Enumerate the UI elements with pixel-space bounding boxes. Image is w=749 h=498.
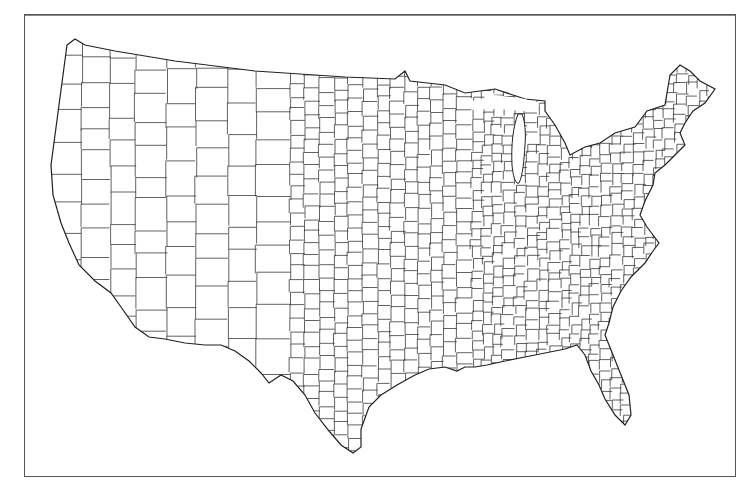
us-outline	[51, 39, 715, 453]
us-county-map	[25, 15, 735, 476]
map-frame	[24, 14, 736, 477]
lake-michigan	[512, 114, 526, 183]
figure-caption-fragment	[80, 0, 680, 6]
